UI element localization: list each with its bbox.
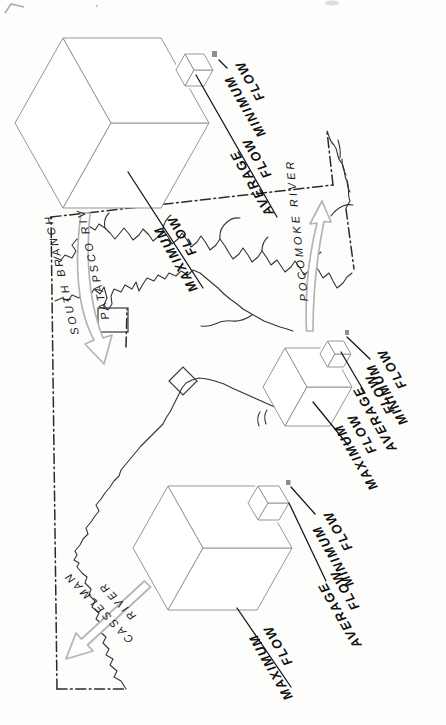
corner-pen-mark bbox=[5, 4, 24, 13]
edge-smudge bbox=[325, 1, 339, 6]
speck bbox=[96, 5, 98, 7]
page: { "groups": [ { "id": "south-branch-pata… bbox=[0, 0, 446, 725]
scan-artifacts bbox=[0, 0, 446, 725]
